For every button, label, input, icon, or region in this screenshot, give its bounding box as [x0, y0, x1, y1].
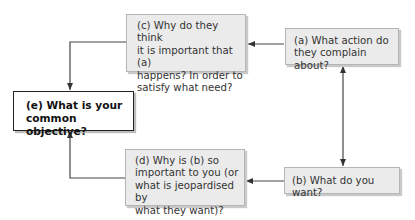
node-c-label: (c) Why do they think it is important th…: [137, 20, 245, 94]
node-a: (a) What action do they complain about?: [285, 28, 399, 65]
node-e-label: (e) What is your common objective?: [26, 99, 133, 138]
node-b: (b) What do you want?: [284, 167, 400, 194]
edge-c-to-e: [70, 42, 126, 90]
node-d: (d) Why is (b) so important to you (or w…: [125, 149, 245, 206]
edge-d-to-e: [70, 131, 125, 178]
node-b-label: (b) What do you want?: [292, 175, 399, 200]
node-c: (c) Why do they think it is important th…: [126, 14, 246, 72]
node-e: (e) What is your common objective?: [13, 91, 134, 131]
node-d-label: (d) Why is (b) so important to you (or w…: [135, 155, 244, 217]
node-a-label: (a) What action do they complain about?: [294, 35, 398, 72]
